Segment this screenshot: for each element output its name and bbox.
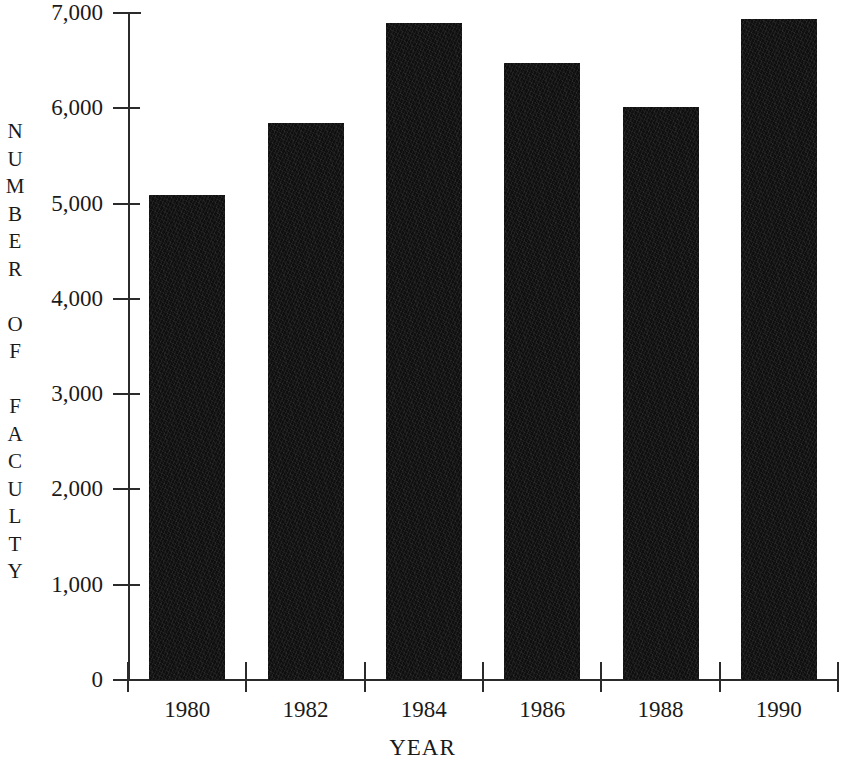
x-axis-tick-label: 1984 (364, 697, 484, 723)
bar (149, 195, 225, 680)
x-axis-title: YEAR (0, 735, 845, 761)
bar (268, 123, 344, 680)
y-axis-tick-label: 7,000 (3, 1, 103, 24)
y-axis-tick-label: 5,000 (3, 192, 103, 215)
bar (623, 107, 699, 680)
x-axis-tick-label: 1982 (246, 697, 366, 723)
y-axis-tick-label: 0 (3, 668, 103, 691)
y-axis-tick-label: 2,000 (3, 477, 103, 500)
x-axis-tick-label: 1980 (127, 697, 247, 723)
x-axis-tick-label: 1990 (719, 697, 839, 723)
bar-chart: NUMBER OF FACULTY 01,0002,0003,0004,0005… (0, 0, 845, 763)
x-axis-tick-label: 1986 (482, 697, 602, 723)
y-axis-tick-label: 6,000 (3, 96, 103, 119)
bar (504, 63, 580, 680)
bar (741, 19, 817, 680)
y-axis-tick-labels: 01,0002,0003,0004,0005,0006,0007,000 (0, 0, 103, 763)
plot-area (128, 13, 838, 680)
x-axis-tick-label: 1988 (601, 697, 721, 723)
y-axis-tick-label: 4,000 (3, 287, 103, 310)
bar (386, 23, 462, 680)
y-axis-tick-label: 3,000 (3, 382, 103, 405)
y-axis-tick-label: 1,000 (3, 573, 103, 596)
